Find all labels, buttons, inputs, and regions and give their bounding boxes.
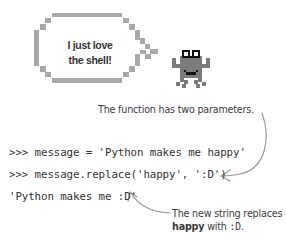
- annotation-with: with: [204, 221, 229, 232]
- annotation-word-happy: happy: [172, 221, 204, 232]
- annotation-period: .: [241, 221, 244, 232]
- annotation-replaces-line-1: The new string replaces: [172, 207, 282, 220]
- annotation-code-d: :D: [230, 221, 241, 232]
- annotation-arrows: [0, 0, 286, 241]
- code-line-1: >>> message = 'Python makes me happy': [9, 146, 246, 159]
- code-line-2: >>> message.replace('happy', ':D'): [9, 168, 227, 181]
- arrow-to-replace-icon: [222, 113, 266, 176]
- annotation-replaces: The new string replaces happy with :D.: [172, 207, 282, 233]
- code-line-3: 'Python makes me :D': [9, 190, 137, 203]
- annotation-replaces-line-2: happy with :D.: [172, 220, 282, 233]
